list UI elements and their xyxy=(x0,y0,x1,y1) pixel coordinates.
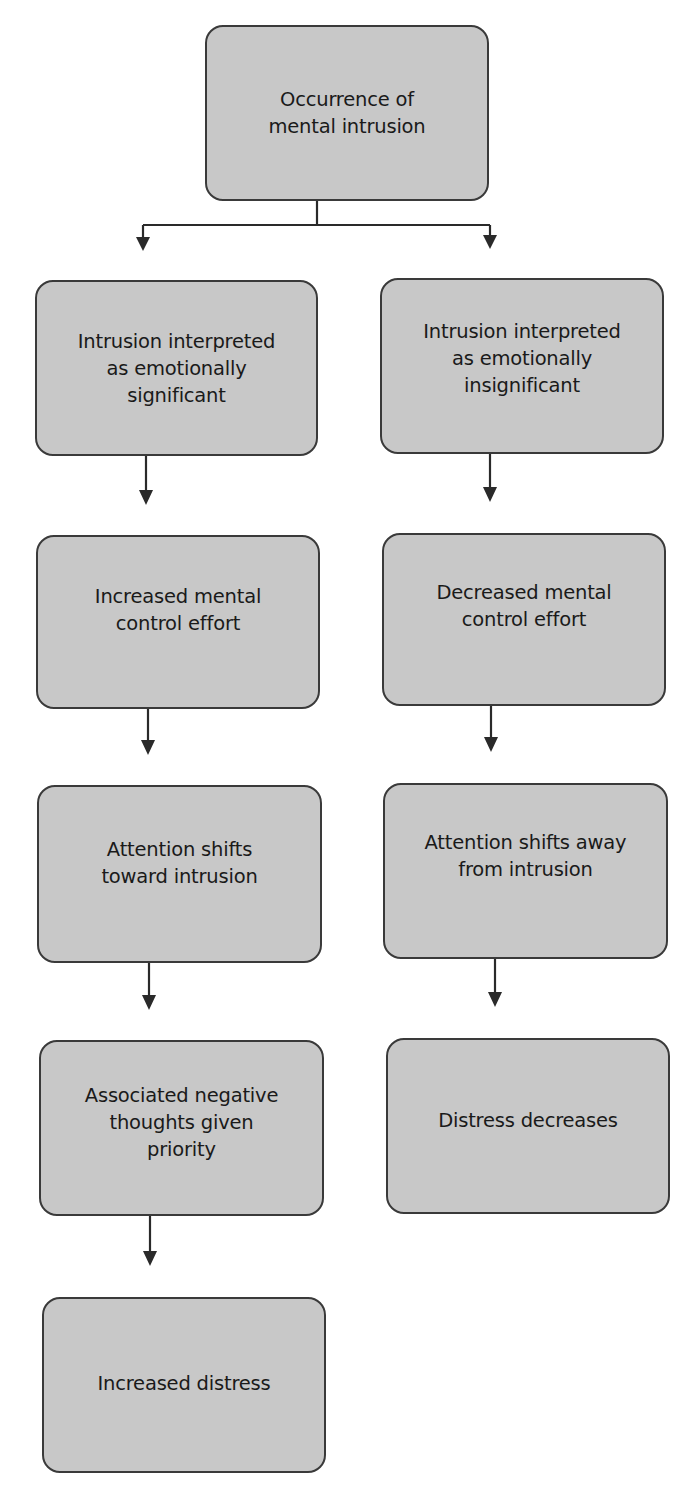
node-label: Attention shifts away from intrusion xyxy=(425,829,627,883)
node-label: Decreased mental control effort xyxy=(436,579,611,633)
node-attention-away-from-intrusion: Attention shifts away from intrusion xyxy=(383,783,668,959)
node-label: Intrusion interpreted as emotionally ins… xyxy=(423,318,620,399)
node-label: Increased mental control effort xyxy=(95,583,261,637)
node-interpreted-significant: Intrusion interpreted as emotionally sig… xyxy=(35,280,318,456)
arrow-right-2-to-3-icon xyxy=(484,737,498,752)
arrow-left-1-to-2-icon xyxy=(139,490,153,505)
arrow-right-3-to-4-icon xyxy=(488,992,502,1007)
node-label: Intrusion interpreted as emotionally sig… xyxy=(78,328,275,409)
node-label: Increased distress xyxy=(97,1370,270,1397)
arrow-root-to-left-icon xyxy=(136,237,150,251)
node-attention-toward-intrusion: Attention shifts toward intrusion xyxy=(37,785,322,963)
node-increased-distress: Increased distress xyxy=(42,1297,326,1473)
node-distress-decreases: Distress decreases xyxy=(386,1038,670,1214)
node-negative-thoughts-priority: Associated negative thoughts given prior… xyxy=(39,1040,324,1216)
arrow-left-4-to-5-icon xyxy=(143,1251,157,1266)
node-label: Attention shifts toward intrusion xyxy=(101,836,257,890)
connector-arrows xyxy=(0,0,693,1497)
node-label: Distress decreases xyxy=(438,1107,618,1134)
node-label: Occurrence of mental intrusion xyxy=(268,86,425,140)
arrow-right-1-to-2-icon xyxy=(483,487,497,502)
arrow-left-2-to-3-icon xyxy=(141,740,155,755)
arrow-left-3-to-4-icon xyxy=(142,995,156,1010)
node-label: Associated negative thoughts given prior… xyxy=(85,1082,278,1163)
node-interpreted-insignificant: Intrusion interpreted as emotionally ins… xyxy=(380,278,664,454)
arrow-root-to-right-icon xyxy=(483,235,497,249)
node-increased-mental-control: Increased mental control effort xyxy=(36,535,320,709)
node-decreased-mental-control: Decreased mental control effort xyxy=(382,533,666,706)
node-occurrence-of-mental-intrusion: Occurrence of mental intrusion xyxy=(205,25,489,201)
